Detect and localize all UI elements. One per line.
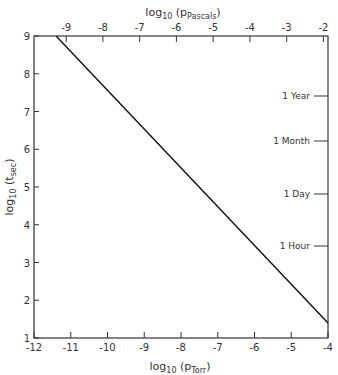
top-axis-title: log10 (pPascals) xyxy=(145,6,220,21)
x2-tick-label: -2 xyxy=(318,22,328,33)
y-tick-label: 8 xyxy=(24,69,30,80)
chart: -12-11-10-9-8-7-6-5-4-9-8-7-6-5-4-3-2123… xyxy=(0,0,338,375)
y-tick-label: 6 xyxy=(24,144,30,155)
plot-frame xyxy=(34,36,328,338)
x2-tick-label: -5 xyxy=(208,22,218,33)
x-tick-label: -8 xyxy=(176,342,186,353)
y-tick-label: 7 xyxy=(24,107,30,118)
annotation-label: 1 Hour xyxy=(280,241,311,251)
x2-tick-label: -7 xyxy=(135,22,145,33)
annotation-label: 1 Month xyxy=(273,136,310,146)
y-tick-label: 2 xyxy=(24,295,30,306)
y-tick-label: 1 xyxy=(24,333,30,344)
x-tick-label: -4 xyxy=(323,342,333,353)
y-tick-label: 4 xyxy=(24,220,30,231)
annotation-label: 1 Day xyxy=(284,189,311,199)
x2-tick-label: -4 xyxy=(245,22,255,33)
x-tick-label: -6 xyxy=(250,342,260,353)
x-tick-label: -11 xyxy=(63,342,79,353)
left-axis-title: log10 (tsec) xyxy=(3,159,18,216)
x-tick-label: -10 xyxy=(99,342,115,353)
x-tick-label: -7 xyxy=(213,342,223,353)
annotation-label: 1 Year xyxy=(282,91,310,101)
x2-tick-label: -3 xyxy=(282,22,292,33)
x2-tick-label: -8 xyxy=(98,22,108,33)
y-tick-label: 5 xyxy=(24,182,30,193)
x2-tick-label: -6 xyxy=(171,22,181,33)
y-tick-label: 9 xyxy=(24,31,30,42)
x-tick-label: -5 xyxy=(286,342,296,353)
x2-tick-label: -9 xyxy=(61,22,71,33)
y-tick-label: 3 xyxy=(24,258,30,269)
x-tick-label: -9 xyxy=(139,342,149,353)
bottom-axis-title: log10 (pTorr) xyxy=(150,360,211,375)
series-line xyxy=(56,36,328,323)
